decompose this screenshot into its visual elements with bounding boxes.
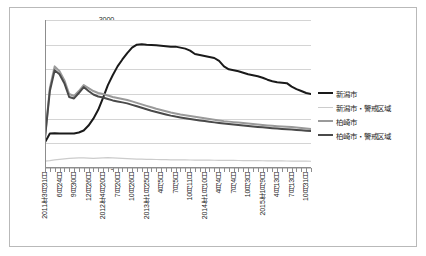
x-axis-tick-label: 4月5日	[157, 172, 164, 193]
chart-screenshot: 050010001500200025003000 2011年3月31日6月24日…	[0, 0, 426, 256]
legend-label: 柏崎市・警戒区域	[336, 130, 391, 141]
x-axis-labels: 2011年3月31日6月24日9月30日12月26日2012年4月20日7月20…	[45, 172, 311, 232]
x-axis-tick	[311, 168, 312, 172]
y-axis	[45, 20, 46, 168]
x-axis-tick-label: 7月4日	[230, 172, 237, 193]
legend-item[interactable]: 新潟市・警戒区域	[318, 100, 422, 114]
x-axis-tick-label: 2012年4月20日	[99, 172, 106, 219]
x-axis-tick-label: 6月24日	[56, 172, 63, 197]
legend-color-swatch	[318, 134, 333, 136]
legend-item[interactable]: 新潟市	[318, 86, 422, 100]
plot-area	[45, 20, 311, 168]
x-axis-tick-label: 7月5日	[172, 172, 179, 193]
x-axis-tick-label: 4月4日	[215, 172, 222, 193]
x-axis-tick-label: 7月20日	[114, 172, 121, 197]
x-axis-tick-label: 4月13日	[273, 172, 280, 197]
series-line-柏崎市	[45, 66, 311, 137]
legend-label: 新潟市	[336, 88, 357, 99]
x-axis-tick-label: 10月11日	[186, 172, 193, 200]
x-axis-tick-label: 2013年1月25日	[143, 172, 150, 219]
legend-label: 新潟市・警戒区域	[336, 102, 391, 113]
legend-item[interactable]: 柏崎市	[318, 114, 422, 128]
chart-legend: 新潟市新潟市・警戒区域柏崎市柏崎市・警戒区域	[318, 86, 422, 142]
x-axis-tick-label: 2014年1月10日	[201, 172, 208, 219]
x-axis-tick-label: 12月26日	[85, 172, 92, 201]
series-line-新潟市・警戒区域	[45, 158, 311, 162]
x-axis-tick-label: 2011年3月31日	[41, 172, 48, 219]
series-lines	[45, 20, 311, 168]
legend-color-swatch	[318, 120, 333, 122]
legend-color-swatch	[318, 92, 333, 94]
legend-label: 柏崎市	[336, 116, 357, 127]
x-axis-tick-label: 10月31日	[302, 172, 309, 201]
x-axis-tick-label: 10月3日	[244, 172, 251, 197]
x-axis-tick-label: 10月26日	[128, 172, 135, 201]
legend-color-swatch	[318, 107, 333, 108]
x-axis-tick-label: 7月13日	[288, 172, 295, 197]
x-axis-tick-label: 9月30日	[70, 172, 77, 197]
legend-item[interactable]: 柏崎市・警戒区域	[318, 128, 422, 142]
x-axis-tick-label: 2015年1月9日	[259, 172, 266, 215]
